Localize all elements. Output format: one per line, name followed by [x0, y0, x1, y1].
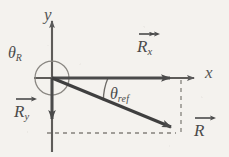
resultant-symbol: R	[194, 121, 204, 140]
vector-diagram-figure: y x θR θref Rx Ry R	[0, 0, 229, 157]
theta-r-symbol: θ	[8, 44, 16, 61]
y-component-subscript: y	[24, 111, 29, 122]
theta-ref-arc	[103, 78, 108, 101]
x-component-label: Rx	[137, 38, 152, 55]
x-axis-label: x	[205, 64, 213, 81]
y-component-label: Ry	[14, 103, 29, 120]
vector-overarrow-icon	[194, 113, 218, 122]
x-component-symbol: R	[137, 37, 147, 56]
theta-ref-label: θref	[110, 86, 129, 102]
y-axis-label: y	[44, 6, 52, 23]
y-component-symbol: R	[14, 102, 24, 121]
x-component-subscript: x	[147, 46, 152, 57]
theta-ref-subscript: ref	[118, 93, 129, 104]
vector-overarrow-icon	[138, 29, 162, 38]
theta-r-label: θR	[8, 45, 22, 61]
theta-r-subscript: R	[16, 52, 22, 63]
theta-ref-symbol: θ	[110, 85, 118, 102]
vector-overarrow-icon	[15, 94, 39, 103]
resultant-label: R	[194, 122, 204, 139]
